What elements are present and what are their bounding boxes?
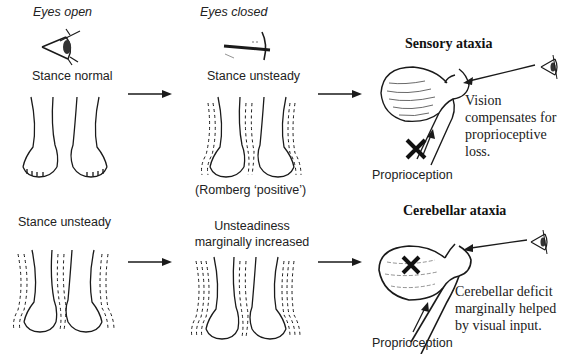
legs-steady-illustration [15, 95, 110, 180]
eye-open-icon [541, 55, 557, 79]
arrow-right-icon [128, 89, 172, 99]
stance-unsteady-label: Stance unsteady [18, 215, 111, 229]
legs-unsteady-illustration [10, 248, 115, 338]
stance-unsteady-label: Stance unsteady [207, 69, 300, 83]
sensory-explanation: Vision compensates for proprioceptive lo… [465, 92, 556, 160]
x-mark-icon [404, 137, 428, 161]
proprioception-label: Proprioception [372, 336, 453, 350]
proprioception-label: Proprioception [372, 168, 453, 182]
eye-closed-icon [222, 28, 272, 62]
eye-open-icon [40, 25, 85, 70]
eye-open-icon [531, 230, 547, 254]
unsteadiness-increased-label: Unsteadiness marginally increased [187, 218, 317, 250]
cerebellar-explanation: Cerebellar deficit marginally helped by … [455, 283, 556, 334]
x-mark-icon [400, 254, 422, 276]
stance-normal-label: Stance normal [32, 69, 113, 83]
romberg-positive-note: (Romberg ‘positive’) [195, 183, 306, 197]
sensory-ataxia-title: Sensory ataxia [405, 36, 493, 52]
arrow-right-icon [128, 257, 172, 267]
cerebellar-ataxia-title: Cerebellar ataxia [403, 203, 506, 219]
legs-unsteady-illustration [198, 95, 298, 180]
arrow-right-icon [318, 89, 362, 99]
legs-unsteady-increased-illustration [190, 255, 300, 345]
column-header-eyes-open: Eyes open [33, 5, 92, 19]
arrow-right-icon [318, 257, 362, 267]
column-header-eyes-closed: Eyes closed [200, 5, 267, 19]
